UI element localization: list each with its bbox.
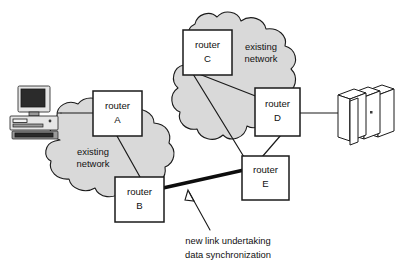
- router-c[interactable]: router C: [183, 30, 232, 75]
- workstation-keyboard-keys: [15, 133, 53, 137]
- workstation-indicator-strip: [13, 124, 43, 127]
- annotation-line1: new link undertaking: [185, 235, 270, 246]
- right-cloud-label-line2: network: [245, 53, 278, 64]
- router-c-label-line1: router: [195, 39, 221, 50]
- router-e-label-line1: router: [253, 164, 279, 175]
- workstation-power-led: [49, 120, 52, 123]
- router-c-label-line2: C: [204, 53, 211, 64]
- link-router-b-router-e-new: [163, 170, 244, 188]
- workstation-monitor-screen: [21, 89, 45, 107]
- mainframe-icon: [338, 85, 394, 145]
- mainframe-cabinet-1-front: [338, 95, 350, 141]
- workstation-icon: [10, 86, 61, 139]
- mainframe-status-light: [370, 111, 373, 114]
- router-a-label-line1: router: [105, 100, 131, 111]
- workstation-system-unit: [10, 116, 58, 130]
- workstation-drive-slot: [13, 119, 27, 123]
- mainframe-open-door: [350, 98, 358, 145]
- diagram-canvas: existing network existing network router…: [0, 0, 405, 274]
- router-b-label-line2: B: [136, 200, 142, 211]
- new-link-annotation-arrowhead: [185, 190, 194, 201]
- router-a[interactable]: router A: [93, 91, 142, 136]
- network-diagram: existing network existing network router…: [0, 0, 405, 274]
- router-e-label-line2: E: [262, 178, 268, 189]
- router-d-label-line1: router: [265, 98, 291, 109]
- annotation-line2: data synchronization: [185, 249, 271, 260]
- router-a-label-line2: A: [114, 114, 121, 125]
- new-link-annotation: new link undertaking data synchronizatio…: [185, 235, 271, 260]
- router-b-label-line1: router: [127, 186, 153, 197]
- router-b[interactable]: router B: [115, 177, 164, 222]
- workstation-monitor-stand: [29, 112, 39, 116]
- router-d-label-line2: D: [274, 112, 281, 123]
- router-d[interactable]: router D: [255, 88, 300, 136]
- left-cloud-label-line1: existing: [77, 146, 109, 157]
- left-cloud-label-line2: network: [77, 158, 110, 169]
- right-cloud-label-line1: existing: [245, 41, 277, 52]
- link-router-d-router-e: [262, 135, 281, 157]
- router-e[interactable]: router E: [242, 156, 289, 200]
